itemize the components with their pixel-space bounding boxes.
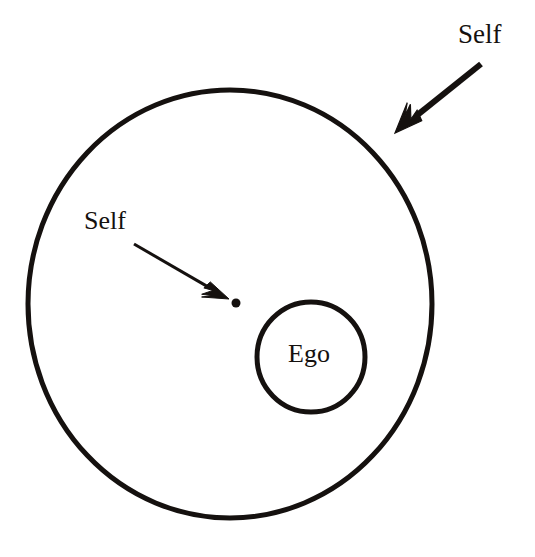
self-boundary-arrow bbox=[395, 64, 481, 133]
self-point-dot bbox=[232, 299, 241, 308]
self-boundary-circle bbox=[28, 90, 432, 518]
self-point-arrow bbox=[134, 244, 229, 299]
label-self-inner: Self bbox=[84, 208, 126, 234]
label-self-outer: Self bbox=[458, 21, 502, 48]
diagram-canvas-root: Self Self Ego bbox=[0, 0, 535, 557]
diagram-svg bbox=[0, 0, 535, 557]
self-boundary-arrowhead bbox=[395, 103, 422, 133]
label-ego: Ego bbox=[288, 341, 330, 367]
